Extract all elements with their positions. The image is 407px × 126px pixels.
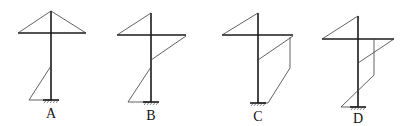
moment-diagram-line [128, 67, 151, 102]
figure-label: D [353, 111, 363, 126]
frame-moment-diagrams: ABCD [0, 0, 407, 126]
fixed-support-icon [143, 102, 159, 105]
moment-diagram-line [117, 13, 151, 35]
figure-b: B [117, 13, 186, 123]
figure-c: C [222, 13, 293, 124]
fixed-support-icon [350, 107, 366, 110]
figure-a: A [18, 11, 86, 121]
moment-diagram-line [258, 36, 293, 60]
fixed-support-icon [43, 100, 59, 103]
moment-diagram-line [151, 36, 186, 60]
figure-d: D [322, 16, 394, 126]
figure-label: A [46, 106, 57, 121]
moment-diagram-line [222, 13, 258, 35]
moment-diagram-line [358, 39, 394, 63]
moment-diagram-line [258, 37, 290, 103]
moment-diagram-line [29, 66, 51, 100]
figure-label: C [253, 109, 262, 124]
fixed-support-icon [250, 103, 266, 106]
moment-diagram-line [18, 11, 86, 33]
moment-diagram-line [322, 16, 358, 39]
figure-label: B [146, 108, 155, 123]
